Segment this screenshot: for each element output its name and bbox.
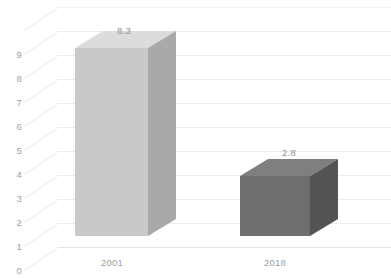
y-tick-8: 8: [4, 74, 22, 84]
chart-bars: [0, 0, 391, 278]
bar-chart: 9 8 7 6 5 4 3 2 1 0 8.3 2.8 2001 2018: [0, 0, 391, 278]
y-tick-9: 9: [4, 50, 22, 60]
bar-2001[interactable]: [75, 31, 176, 236]
y-tick-6: 6: [4, 122, 22, 132]
bar-value-label-2018: 2.8: [271, 147, 307, 158]
y-tick-1: 1: [4, 242, 22, 252]
bar-2001-side: [148, 31, 176, 236]
y-tick-7: 7: [4, 98, 22, 108]
bar-2018[interactable]: [240, 159, 338, 236]
y-tick-0: 0: [4, 266, 22, 276]
y-tick-4: 4: [4, 170, 22, 180]
x-category-2018: 2018: [255, 257, 295, 268]
x-category-2001: 2001: [92, 257, 132, 268]
bar-value-label-2001: 8.3: [106, 25, 142, 36]
y-tick-3: 3: [4, 194, 22, 204]
y-tick-2: 2: [4, 218, 22, 228]
bar-2001-front: [75, 48, 148, 236]
bar-2018-front: [240, 176, 310, 236]
y-tick-5: 5: [4, 146, 22, 156]
